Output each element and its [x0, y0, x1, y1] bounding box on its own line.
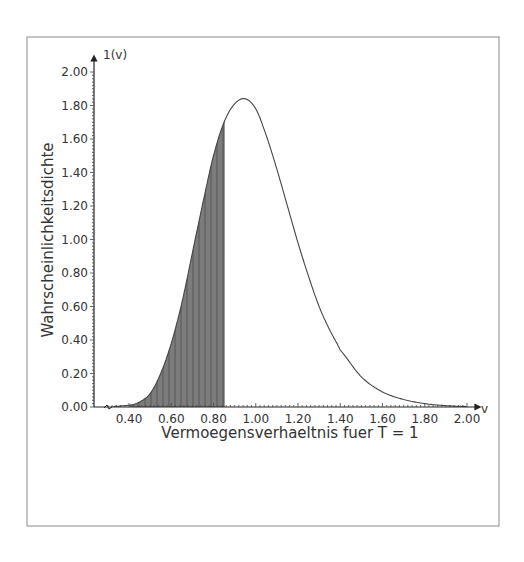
y-axis-title: Wahrscheinlichkeitsdichte	[39, 142, 57, 337]
y-tick-label: 1.60	[61, 132, 88, 146]
y-tick-label: 1.40	[61, 166, 88, 180]
y-tick-label: 0.40	[61, 333, 88, 347]
y-tick-label: 1.80	[61, 99, 88, 113]
y-tick-label: 0.80	[61, 266, 88, 280]
shaded-area	[129, 122, 224, 407]
y-tick-label: 1.00	[61, 233, 88, 247]
y-tick-label: 2.00	[61, 65, 88, 79]
y-tick-label: 0.00	[61, 400, 88, 414]
x-axis-symbol: v	[481, 402, 488, 416]
x-tick-label: 2.00	[454, 412, 481, 426]
chart-frame	[27, 37, 499, 526]
y-tick-label: 1.20	[61, 199, 88, 213]
y-tick-label: 0.20	[61, 367, 88, 381]
y-axis-symbol: 1(v)	[103, 48, 127, 62]
chart: 0.000.200.400.600.801.001.201.401.601.80…	[0, 0, 524, 562]
y-tick-label: 0.60	[61, 300, 88, 314]
x-axis-title: Vermoegensverhaeltnis fuer T = 1	[161, 424, 418, 442]
plot-area: 0.000.200.400.600.801.001.201.401.601.80…	[61, 58, 480, 426]
x-tick-label: 0.40	[116, 412, 143, 426]
